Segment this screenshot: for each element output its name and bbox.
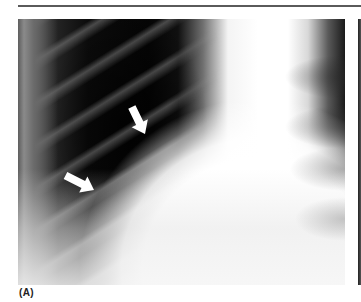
lower-arrow-icon xyxy=(61,167,98,198)
annotation-arrows xyxy=(18,19,345,285)
top-rule-divider xyxy=(18,5,361,7)
upper-arrow-icon xyxy=(124,103,153,138)
figure-panel-a xyxy=(18,19,345,285)
panel-label: (A) xyxy=(19,287,34,299)
